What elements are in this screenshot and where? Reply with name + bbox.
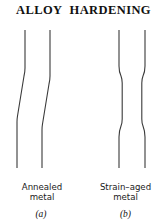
panel-a-caption-line-1: Annealed bbox=[22, 182, 62, 192]
panel-b-figure-marker: (b) bbox=[84, 209, 167, 219]
annealed-specimen-left-edge bbox=[17, 30, 25, 168]
panel-a-caption: Annealed metal bbox=[0, 182, 84, 202]
panel-b-caption-line-2: metal bbox=[84, 192, 167, 202]
strain-aged-specimen-right-edge bbox=[142, 30, 145, 168]
panel-a-caption-line-2: metal bbox=[0, 192, 84, 202]
panel-b-caption: Strain–aged metal bbox=[84, 182, 167, 202]
panel-b-caption-line-1: Strain–aged bbox=[100, 182, 151, 192]
strain-aged-specimen-group bbox=[119, 30, 145, 168]
annealed-specimen-right-edge bbox=[42, 30, 50, 168]
strain-aged-specimen-left-edge bbox=[119, 30, 122, 168]
figure-container: ALLOY HARDENING Annealed metal Strain–ag… bbox=[0, 0, 167, 224]
panel-a-figure-marker: (a) bbox=[0, 209, 82, 219]
annealed-specimen-group bbox=[17, 30, 50, 168]
